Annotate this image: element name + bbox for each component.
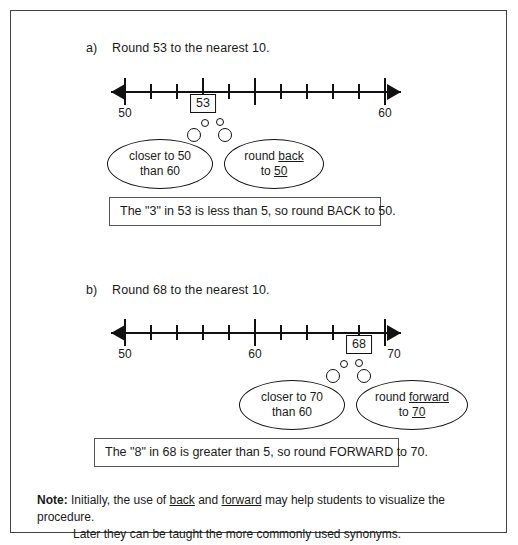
axis-label-50-a: 50 [118, 106, 131, 120]
tick-51-b [150, 325, 152, 340]
problem-b-prompt: b)Round 68 to the nearest 10. [86, 283, 270, 297]
bubble-a2-line1-pre: round [244, 149, 278, 163]
problem-a-prompt: a)Round 53 to the nearest 10. [86, 41, 270, 55]
tick-57-a [306, 84, 308, 99]
tick-70-b [384, 319, 386, 346]
axis-arrow-right-icon-b [387, 325, 401, 341]
problem-b-text: Round 68 to the nearest 10. [112, 283, 270, 297]
tick-53-b [202, 325, 204, 340]
tick-64-b [306, 325, 308, 340]
thought-bubble-a-1: closer to 50 than 60 [107, 139, 213, 189]
axis-label-60-b: 60 [248, 347, 261, 361]
tick-60-a [384, 78, 386, 105]
note-line1-underline-forward: forward [222, 493, 262, 507]
tick-50-a [124, 78, 126, 105]
tick-55-a [254, 78, 256, 105]
bubble-tail-dot-small-a1 [201, 119, 209, 127]
bubble-tail-dot-large-a1 [187, 128, 201, 142]
note-line1-underline-back: back [170, 493, 195, 507]
note-line1-mid: and [195, 493, 222, 507]
problem-a-label: a) [86, 41, 112, 55]
bubble-tail-dot-large-b2 [357, 369, 371, 383]
tick-51-a [150, 84, 152, 99]
bubble-b2-line1-pre: round [375, 390, 409, 404]
worksheet-page: a)Round 53 to the nearest 10. 50 60 53 c… [10, 10, 507, 533]
thought-bubble-b-1: closer to 70 than 60 [239, 380, 345, 430]
note-line2: Later they can be taught the more common… [37, 526, 487, 543]
problem-b-label: b) [86, 283, 112, 297]
bubble-b2-line2-pre: to [399, 405, 412, 419]
tick-54-a [228, 84, 230, 99]
tick-56-a [280, 84, 282, 99]
axis-label-60-a: 60 [378, 106, 391, 120]
bubble-a1-line2: than 60 [140, 164, 180, 178]
bubble-b1-line1: closer to 70 [261, 390, 323, 404]
bubble-tail-dot-small-a2 [216, 118, 224, 126]
tick-66-b [332, 325, 334, 340]
note-line1-pre: Initially, the use of [71, 493, 170, 507]
marked-value-box-b: 68 [346, 335, 372, 354]
bubble-tail-dot-small-b2 [355, 359, 363, 367]
bubble-tail-dot-large-b1 [326, 369, 340, 383]
bubble-b2-line1-underline: forward [409, 390, 449, 404]
bubble-a1-line1: closer to 50 [129, 149, 191, 163]
note-block: Note: Initially, the use of back and for… [37, 492, 487, 543]
bubble-a2-line2-pre: to [261, 164, 274, 178]
bubble-a2-line1-underline: back [278, 149, 303, 163]
number-line-a: 50 60 53 [111, 73, 401, 123]
bubble-tail-dot-large-a2 [218, 128, 232, 142]
tick-59-a [358, 84, 360, 99]
note-title: Note: [37, 493, 71, 507]
thought-bubble-a-2: round back to 50 [224, 139, 324, 189]
tick-52-a [176, 84, 178, 99]
bubble-tail-dot-small-b1 [340, 360, 348, 368]
tick-50-b [124, 319, 126, 346]
bubble-b1-line2: than 60 [272, 405, 312, 419]
tick-58-a [332, 84, 334, 99]
axis-arrow-left-icon-a [111, 84, 125, 100]
axis-label-50-b: 50 [118, 347, 131, 361]
bubble-a2-line2-underline: 50 [274, 164, 287, 178]
axis-label-70-b: 70 [387, 347, 400, 361]
tick-60-b [254, 319, 256, 346]
tick-52-b [176, 325, 178, 340]
tick-62-b [280, 325, 282, 340]
statement-box-a: The "3" in 53 is less than 5, so round B… [109, 197, 381, 226]
number-line-b: 50 60 70 68 [111, 314, 401, 364]
axis-arrow-right-icon-a [387, 84, 401, 100]
problem-a-text: Round 53 to the nearest 10. [112, 41, 270, 55]
statement-box-b: The "8" in 68 is greater than 5, so roun… [94, 438, 399, 467]
bubble-b2-line2-underline: 70 [412, 405, 425, 419]
tick-54-b [228, 325, 230, 340]
thought-bubble-b-2: round forward to 70 [356, 380, 468, 430]
marked-value-box-a: 53 [190, 94, 216, 113]
axis-arrow-left-icon-b [111, 325, 125, 341]
